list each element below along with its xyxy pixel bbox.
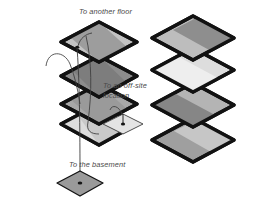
basement-node-dot bbox=[78, 181, 83, 184]
label-to-offsite-line2: location bbox=[103, 91, 129, 100]
label-to-another-floor: To another floor bbox=[79, 7, 133, 16]
label-to-offsite-line1: To an off-site bbox=[103, 81, 147, 90]
diagram-canvas: To another floor To an off-site location… bbox=[0, 0, 254, 203]
label-to-the-basement: To the basement bbox=[69, 160, 126, 169]
floor-stack-diagram: To another floor To an off-site location… bbox=[0, 0, 254, 203]
